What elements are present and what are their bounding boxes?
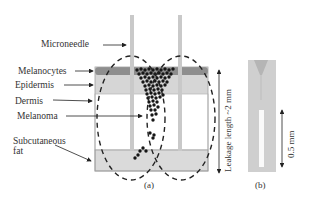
micrograph: [248, 60, 276, 172]
dermis-layer: [95, 94, 208, 150]
microneedle-left: [130, 15, 134, 151]
label-dermis: Dermis: [15, 96, 43, 106]
caption-panel-a: (a): [144, 180, 154, 190]
leakage-length-label: Leakage length ~2 mm: [223, 89, 233, 172]
label-microneedle: Microneedle: [41, 39, 89, 49]
skin-diagram: [0, 0, 311, 199]
subcutaneous-fat-layer: [95, 150, 208, 171]
label-melanocytes: Melanocytes: [18, 66, 67, 76]
label-subcutaneous: Subcutaneous: [13, 136, 66, 146]
scale-bar-label: 0.5 mm: [286, 130, 296, 158]
caption-panel-b: (b): [255, 180, 266, 190]
label-epidermis: Epidermis: [15, 80, 54, 90]
label-subcutaneous-fat: Subcutaneous fat: [13, 136, 66, 156]
label-fat: fat: [13, 146, 23, 156]
microneedle-right: [178, 15, 182, 151]
label-melanoma: Melanoma: [17, 111, 58, 121]
